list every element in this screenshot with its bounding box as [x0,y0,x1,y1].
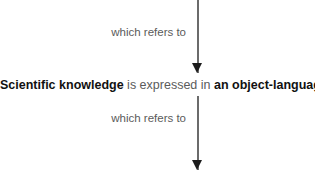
arrow-top [190,0,206,73]
arrow-top-head-icon [192,63,202,73]
flow-diagram: which refers to Scientific knowledge is … [0,0,315,172]
statement-object: an object-language [214,78,315,92]
arrow-bottom-shaft [197,96,199,170]
statement-line: Scientific knowledge is expressed in an … [0,77,315,93]
edge-label-top: which refers to [0,26,186,39]
statement-subject: Scientific knowledge [0,78,124,92]
statement-copula: is expressed in [124,78,214,92]
edge-label-bottom: which refers to [0,112,186,125]
arrow-bottom [190,96,206,170]
arrow-bottom-head-icon [192,160,202,170]
